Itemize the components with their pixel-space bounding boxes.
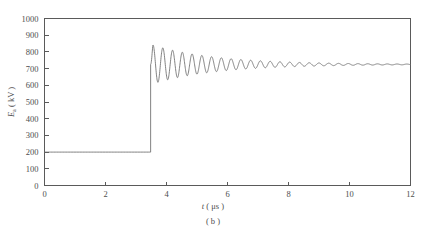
plot-border [45, 19, 411, 186]
y-tick-label: 900 [26, 30, 39, 40]
y-tick-label: 700 [26, 64, 39, 74]
figure-caption: ( b ) [206, 216, 220, 226]
x-tick-label: 8 [286, 189, 290, 199]
x-tick-label: 12 [406, 189, 415, 199]
chart-figure: 01002003004005006007008009001000 0246810… [0, 0, 422, 232]
data-series-line [45, 45, 411, 152]
x-axis-title: t ( μs ) [202, 201, 224, 211]
y-tick-label: 0 [34, 181, 38, 191]
x-axis-unit: ( μs ) [206, 201, 224, 211]
y-tick-label: 200 [26, 147, 39, 157]
y-tick-label: 100 [26, 164, 39, 174]
svg-text:Ea ( kV ): Ea ( kV ) [6, 87, 17, 118]
x-tick-label: 10 [345, 189, 354, 199]
x-tick-label: 6 [225, 189, 229, 199]
x-tick-label: 2 [103, 189, 107, 199]
plot-frame [45, 19, 411, 186]
y-tick-label: 600 [26, 80, 39, 90]
y-tick-label: 1000 [22, 14, 39, 24]
y-tick-label: 400 [26, 114, 39, 124]
y-axis-unit: ( kV ) [6, 87, 16, 107]
y-axis-title: Ea ( kV ) [6, 87, 17, 118]
x-tick-label: 4 [164, 189, 169, 199]
x-tick-label: 0 [42, 189, 46, 199]
y-tick-label: 800 [26, 47, 39, 57]
x-axis: 024681012 [42, 182, 414, 199]
y-tick-label: 500 [26, 97, 39, 107]
y-tick-label: 300 [26, 130, 39, 140]
svg-text:t ( μs ): t ( μs ) [202, 201, 224, 211]
